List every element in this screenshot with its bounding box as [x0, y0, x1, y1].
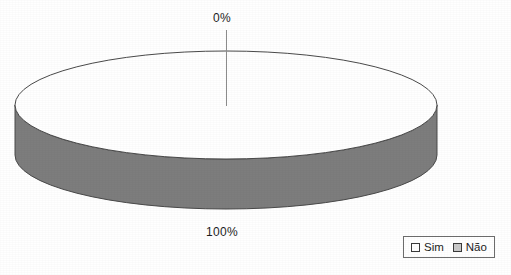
- legend-label-nao: Não: [466, 241, 487, 253]
- data-label-nao-percent: 100%: [182, 225, 262, 239]
- legend-swatch-nao: [453, 243, 462, 252]
- legend-item-sim[interactable]: Sim: [411, 241, 444, 253]
- legend-label-sim: Sim: [424, 241, 444, 253]
- chart-legend: Sim Não: [403, 236, 495, 258]
- data-label-sim-percent: 0%: [189, 11, 255, 25]
- legend-swatch-sim: [411, 243, 420, 252]
- legend-item-nao[interactable]: Não: [453, 241, 487, 253]
- pie-chart-figure: 0% 100% Sim Não: [0, 0, 511, 275]
- zero-label-leader-line: [226, 30, 227, 106]
